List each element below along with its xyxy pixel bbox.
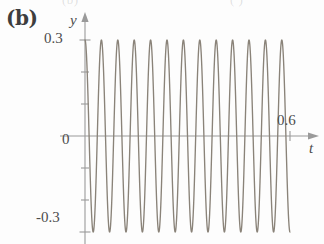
y-axis-label: y: [70, 12, 77, 29]
y-tick-label-min: -0.3: [36, 209, 60, 226]
x-tick-label: 0.6: [277, 112, 296, 129]
x-axis-label: t: [309, 140, 313, 157]
y-tick-label-max: 0.3: [44, 30, 63, 47]
y-axis-arrowhead: [81, 12, 88, 22]
figure-panel: (b) ( ) (b) 0.3 0 -0.3 0.6 y t: [0, 0, 324, 244]
origin-label: 0: [62, 131, 70, 148]
x-axis-arrowhead: [308, 132, 319, 139]
